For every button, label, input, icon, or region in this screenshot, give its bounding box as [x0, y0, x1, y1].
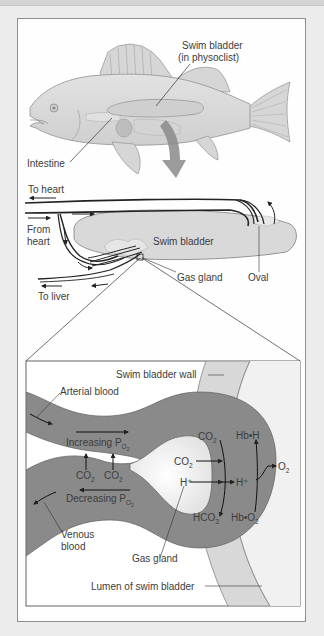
label-to-liver: To liver [38, 291, 70, 302]
label-heart: heart [27, 236, 50, 247]
label-intestine: Intestine [27, 158, 65, 169]
swim-bladder-diagram: Swim bladder (in physoclist) Intestine [0, 0, 324, 636]
label-gas-gland-mid: Gas gland [177, 272, 223, 283]
gas-gland-detail: Swim bladder wall Arterial blood Increas… [26, 361, 300, 606]
label-from: From [27, 224, 50, 235]
anal-fin [196, 136, 218, 160]
label-arterial-blood: Arterial blood [60, 386, 119, 397]
label-oval: Oval [248, 272, 269, 283]
label-to-heart: To heart [28, 184, 64, 195]
label-in-physoclist: (in physoclist) [178, 52, 239, 63]
label-swim-bladder-wall: Swim bladder wall [116, 369, 197, 380]
label-lumen: Lumen of swim bladder [91, 581, 195, 592]
fish-illustration: Swim bladder (in physoclist) Intestine [27, 40, 290, 178]
label-venous: Venous [61, 529, 94, 540]
label-swim-bladder: Swim bladder [182, 40, 243, 51]
pelvic-fin [112, 142, 140, 174]
label-gas-gland-detail: Gas gland [132, 553, 178, 564]
label-swim-bladder-mid: Swim bladder [153, 236, 214, 247]
label-h-plus-blood: H⁺ [236, 477, 248, 488]
label-blood: blood [61, 541, 85, 552]
circulation-illustration: To heart From heart Swim bladder Gas gla… [25, 184, 296, 302]
fish-stomach [116, 119, 132, 137]
label-h-plus-gland: H⁺ [180, 477, 192, 488]
label-hb-h: Hb•H [236, 430, 260, 441]
label-hco3: HCO3– [193, 510, 223, 525]
